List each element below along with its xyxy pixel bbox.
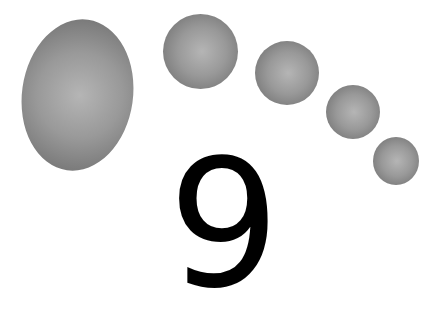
circle-shape-2	[255, 41, 319, 105]
circle-shape-1	[163, 14, 238, 89]
circle-shape-4	[373, 137, 419, 185]
digit-nine: 9	[168, 138, 272, 314]
circle-shape-3	[326, 85, 380, 139]
large-ellipse-shape	[12, 12, 143, 178]
number-nine-illustration: 9	[0, 0, 440, 316]
